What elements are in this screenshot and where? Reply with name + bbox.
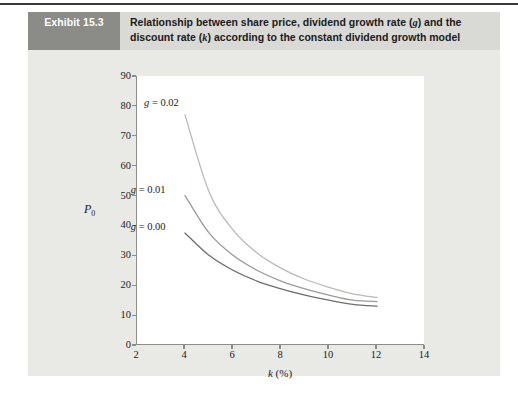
exhibit-title-line2-part-a: discount rate ( <box>130 31 202 43</box>
y-axis-tick-mark <box>132 135 136 136</box>
plot-area <box>136 76 424 345</box>
exhibit-title-line1-part-a: Relationship between share price, divide… <box>130 16 412 28</box>
top-rule-divider <box>0 3 518 5</box>
exhibit-header: Exhibit 15.3 Relationship between share … <box>28 12 500 50</box>
x-axis-tick-label: 4 <box>172 349 196 360</box>
series-label-value: = 0.00 <box>136 221 166 232</box>
x-axis-tick-mark <box>231 345 232 349</box>
series-label-value: = 0.01 <box>136 184 166 195</box>
x-axis-tick-mark <box>375 345 376 349</box>
x-axis-tick-mark <box>327 345 328 349</box>
series-label-value: = 0.02 <box>149 97 179 108</box>
series-label-g-0-02: g = 0.02 <box>144 97 179 108</box>
x-axis-symbol-k: k <box>268 367 273 379</box>
exhibit-title-line-2: discount rate (k) according to the const… <box>130 30 494 45</box>
x-axis-tick-mark <box>423 345 424 349</box>
exhibit-title: Relationship between share price, divide… <box>120 12 500 50</box>
x-axis-tick-label: 14 <box>412 349 436 360</box>
x-axis-tick-label: 12 <box>364 349 388 360</box>
x-axis-tick-mark <box>183 345 184 349</box>
y-axis-tick-label: 40 <box>105 219 131 230</box>
y-axis-tick-mark <box>132 165 136 166</box>
exhibit-badge: Exhibit 15.3 <box>28 12 120 50</box>
y-axis-tick-mark <box>132 75 136 76</box>
x-axis-tick-label: 2 <box>124 349 148 360</box>
series-label-g-0-00: g = 0.00 <box>131 221 166 232</box>
y-axis-title: P0 <box>84 202 95 218</box>
exhibit-title-line2-part-b: ) according to the constant dividend gro… <box>208 31 461 43</box>
chart-curves <box>137 76 425 345</box>
series-curve <box>185 233 377 306</box>
x-axis-title: k (%) <box>220 367 340 379</box>
y-axis-tick-label: 80 <box>105 100 131 111</box>
y-axis-tick-label: 70 <box>105 130 131 141</box>
y-axis-tick-label: 20 <box>105 279 131 290</box>
series-curve <box>185 196 377 302</box>
x-axis-tick-label: 6 <box>220 349 244 360</box>
y-axis-tick-mark <box>132 255 136 256</box>
chart-panel: P0 k (%) 01020304050607080902468101214g … <box>28 50 500 376</box>
y-axis-tick-label: 10 <box>105 309 131 320</box>
y-axis-tick-label: 60 <box>105 160 131 171</box>
x-axis-tick-label: 10 <box>316 349 340 360</box>
y-axis-tick-mark <box>132 195 136 196</box>
y-axis-tick-label: 50 <box>105 190 131 201</box>
y-axis-tick-mark <box>132 285 136 286</box>
y-axis-tick-label: 30 <box>105 249 131 260</box>
y-axis-tick-mark <box>132 105 136 106</box>
x-axis-tick-label: 8 <box>268 349 292 360</box>
x-axis-tick-mark <box>279 345 280 349</box>
exhibit-title-line-1: Relationship between share price, divide… <box>130 15 494 30</box>
exhibit-title-line1-part-b: ) and the <box>418 16 462 28</box>
y-axis-tick-mark <box>132 315 136 316</box>
series-curve <box>185 115 377 298</box>
y-axis-tick-mark <box>132 344 136 345</box>
exhibit-figure: Exhibit 15.3 Relationship between share … <box>0 0 518 404</box>
y-axis-tick-label: 90 <box>105 70 131 81</box>
series-label-g-0-01: g = 0.01 <box>131 184 166 195</box>
